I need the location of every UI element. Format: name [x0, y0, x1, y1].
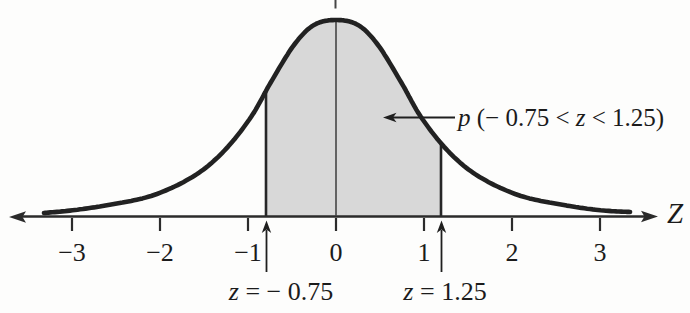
tick-label: −2 [146, 238, 174, 267]
tick-label: 3 [594, 238, 607, 267]
region-probability-label: p (− 0.75 < z < 1.25) [456, 104, 664, 132]
tick-label: 0 [330, 238, 343, 267]
tick-label: 2 [506, 238, 519, 267]
tick-label: −3 [58, 238, 86, 267]
annotation-right-bound: z = 1.25 [402, 221, 486, 307]
distribution-chart: Z −3−2−10123 z = − 0.75 z = 1.25 p (− 0.… [0, 0, 690, 313]
right-bound-label: z = 1.25 [402, 277, 486, 306]
left-bound-label: z = − 0.75 [228, 277, 333, 306]
axis-ticks: −3−2−10123 [58, 218, 606, 267]
normal-distribution-figure: Z −3−2−10123 z = − 0.75 z = 1.25 p (− 0.… [0, 0, 690, 313]
tick-label: −1 [234, 238, 262, 267]
tick-label: 1 [418, 238, 431, 267]
axis-label: Z [667, 197, 684, 229]
